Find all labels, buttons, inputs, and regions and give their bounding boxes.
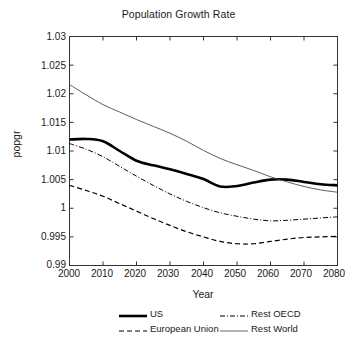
legend-swatch-us (118, 308, 148, 320)
legend-label: Rest World (251, 323, 298, 335)
legend-item-rest-oecd: Rest OECD (219, 306, 301, 321)
axis-ticks (70, 37, 338, 266)
chart-legend: US Rest OECD European Union Rest Worl (0, 306, 357, 346)
figure-canvas: Population Growth Rate popgr 1.03 1.025 … (0, 0, 357, 349)
legend-item-us: US (118, 306, 163, 321)
legend-label: US (150, 308, 163, 320)
legend-item-european-union: European Union (118, 321, 219, 336)
series-line-rest-world (70, 85, 338, 193)
axes-frame (70, 37, 338, 266)
legend-item-rest-world: Rest World (219, 321, 298, 336)
plot-area (0, 0, 357, 349)
legend-label: Rest OECD (251, 308, 301, 320)
series-line-us (70, 139, 338, 187)
series-line-european-union (70, 185, 338, 244)
data-curves (70, 85, 338, 244)
legend-swatch-rest-world (219, 323, 249, 335)
legend-swatch-european-union (118, 323, 148, 335)
legend-label: European Union (150, 323, 219, 335)
series-line-rest-oecd (70, 144, 338, 221)
legend-swatch-rest-oecd (219, 308, 249, 320)
